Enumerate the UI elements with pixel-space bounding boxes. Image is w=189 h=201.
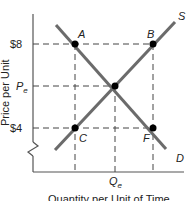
axis-break-icon	[28, 142, 38, 156]
point-f	[150, 125, 157, 132]
label-f: F	[143, 132, 151, 144]
label-supply: S	[178, 10, 186, 22]
tick-4: $4	[10, 122, 22, 134]
tick-pe: Pe	[16, 80, 28, 95]
tick-8: $8	[10, 38, 22, 50]
point-c	[72, 125, 79, 132]
label-a: A	[77, 28, 85, 40]
tick-qe: Qe	[109, 175, 123, 190]
y-axis-label: Price per Unit	[0, 59, 11, 126]
point-equilibrium	[112, 83, 119, 90]
label-b: B	[147, 28, 154, 40]
supply-demand-diagram: A B C F S D $8 Pe $4 Qe Price per Unit Q…	[0, 0, 189, 201]
x-axis-label: Quantity per Unit of Time	[48, 193, 170, 201]
label-c: C	[79, 132, 87, 144]
point-b	[150, 41, 157, 48]
label-demand: D	[176, 152, 184, 164]
point-a	[72, 41, 79, 48]
